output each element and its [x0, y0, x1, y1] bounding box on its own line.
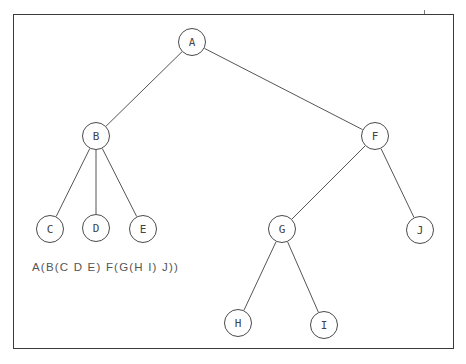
node-label: C	[47, 223, 54, 236]
node-c: C	[36, 215, 64, 243]
edge-b-c	[56, 149, 90, 217]
edge-g-h	[244, 242, 276, 311]
edge-g-i	[288, 242, 319, 312]
node-i: I	[310, 311, 338, 339]
node-label: H	[235, 317, 242, 330]
edge-b-e	[102, 148, 136, 216]
node-a: A	[178, 28, 206, 56]
edge-f-g	[292, 146, 365, 219]
node-e: E	[129, 215, 157, 243]
node-label: I	[321, 319, 328, 332]
node-h: H	[224, 309, 252, 337]
parenthesized-notation: A(B(C D E) F(G(H I) J))	[32, 261, 179, 273]
node-b: B	[82, 122, 110, 150]
node-label: G	[279, 223, 286, 236]
node-label: A	[189, 36, 196, 49]
tree-diagram: ABFCDEGJHI A(B(C D E) F(G(H I) J))	[0, 0, 466, 364]
node-label: B	[93, 130, 100, 143]
node-label: E	[140, 223, 147, 236]
node-d: D	[82, 214, 110, 242]
node-label: J	[417, 224, 424, 237]
node-g: G	[268, 215, 296, 243]
node-f: F	[361, 122, 389, 150]
node-j: J	[406, 216, 434, 244]
edge-f-j	[381, 149, 414, 218]
edge-a-f	[204, 48, 362, 129]
node-label: D	[93, 222, 100, 235]
edge-a-b	[106, 52, 182, 126]
node-label: F	[372, 130, 379, 143]
